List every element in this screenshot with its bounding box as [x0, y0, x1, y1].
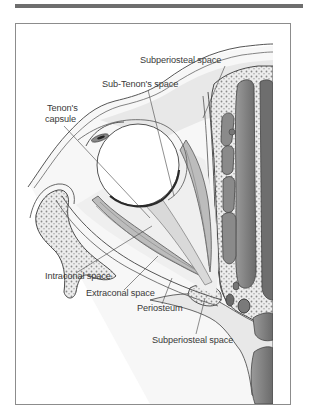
anatomy-group — [28, 44, 273, 404]
label-periosteum: Periosteum — [137, 303, 182, 314]
label-tenons-line1: Tenon's — [47, 103, 78, 114]
label-sub-tenons-space: Sub-Tenon's space — [102, 79, 178, 90]
vessel — [233, 282, 239, 290]
label-extraconal-space: Extraconal space — [86, 288, 155, 299]
sinus-cell — [236, 80, 257, 288]
sinus-cell — [222, 146, 234, 175]
sinus-cell — [222, 213, 236, 264]
turbinate — [251, 347, 273, 404]
vessel — [226, 294, 234, 306]
label-tenons-capsule: capsule — [45, 114, 76, 125]
label-subperiosteal-space-top: Subperiosteal space — [140, 55, 221, 66]
sinus-cell — [260, 80, 273, 300]
label-intraconal-space: Intraconal space — [45, 271, 111, 282]
label-subperiosteal-space-bottom: Subperiosteal space — [152, 335, 233, 346]
vessel — [238, 299, 250, 313]
sinus-cell — [223, 177, 235, 213]
